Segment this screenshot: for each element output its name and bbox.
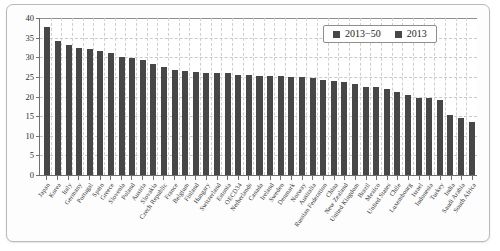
bar[interactable]	[87, 49, 93, 175]
x-axis-tick	[89, 176, 90, 180]
bar[interactable]	[55, 41, 61, 175]
bar[interactable]	[394, 92, 400, 175]
bar[interactable]	[140, 60, 146, 175]
x-axis-tick	[78, 176, 79, 180]
bar[interactable]	[310, 78, 316, 175]
x-axis-tick	[46, 176, 47, 180]
x-axis-tick	[376, 176, 377, 180]
bar[interactable]	[267, 76, 273, 175]
bar[interactable]	[193, 72, 199, 175]
legend-item-0[interactable]: 2013−50	[333, 29, 381, 39]
bar[interactable]	[182, 71, 188, 175]
x-axis-tick	[302, 176, 303, 180]
x-axis-tick	[153, 176, 154, 180]
bar-slot	[297, 18, 308, 175]
bar[interactable]	[331, 81, 337, 175]
y-axis-tick-label: 10	[26, 132, 35, 141]
x-axis-tick	[355, 176, 356, 180]
bar[interactable]	[203, 73, 209, 175]
bar[interactable]	[214, 73, 220, 175]
x-label-slot: South Africa	[467, 181, 478, 243]
bar-slot	[191, 18, 202, 175]
legend-item-1[interactable]: 2013	[395, 29, 427, 39]
x-axis-tick	[344, 176, 345, 180]
bar-slot	[42, 18, 53, 175]
bar[interactable]	[426, 98, 432, 175]
bar-slot	[254, 18, 265, 175]
bar[interactable]	[129, 58, 135, 175]
bar[interactable]	[384, 89, 390, 175]
x-axis-tick	[238, 176, 239, 180]
y-axis-tick-label: 30	[26, 53, 35, 62]
bar[interactable]	[76, 48, 82, 175]
x-axis-tick	[440, 176, 441, 180]
x-axis-tick	[472, 176, 473, 180]
bar-slot	[307, 18, 318, 175]
bar-slot	[445, 18, 456, 175]
x-axis-tick	[227, 176, 228, 180]
bar[interactable]	[341, 82, 347, 175]
bar[interactable]	[119, 57, 125, 175]
bar[interactable]	[373, 87, 379, 175]
legend-swatch-icon	[333, 31, 340, 38]
bar[interactable]	[256, 76, 262, 175]
x-axis-tick	[451, 176, 452, 180]
bar[interactable]	[363, 87, 369, 175]
x-axis-tick	[100, 176, 101, 180]
bar[interactable]	[405, 95, 411, 175]
bar[interactable]	[288, 77, 294, 175]
x-axis-tick	[334, 176, 335, 180]
bar[interactable]	[108, 53, 114, 175]
bar[interactable]	[225, 73, 231, 175]
bar[interactable]	[246, 75, 252, 175]
bar[interactable]	[416, 98, 422, 175]
x-axis-tick	[248, 176, 249, 180]
x-axis-tick	[57, 176, 58, 180]
chart-card: 0510152025303540 JapanKoreaItalyGermanyP…	[6, 4, 490, 242]
bar-slot	[63, 18, 74, 175]
x-axis-tick	[121, 176, 122, 180]
x-axis-tick	[387, 176, 388, 180]
y-axis-tick-label: 40	[26, 14, 35, 23]
bar-slot	[466, 18, 477, 175]
bar-slot	[265, 18, 276, 175]
legend-label: 2013	[407, 29, 427, 39]
bar[interactable]	[44, 27, 50, 175]
x-axis-labels: JapanKoreaItalyGermanyPortugalSpainGreec…	[39, 181, 477, 243]
y-axis-tick-label: 25	[26, 73, 35, 82]
x-axis-tick	[68, 176, 69, 180]
y-axis-tick-label: 35	[26, 33, 35, 42]
bar-slot	[127, 18, 138, 175]
bar[interactable]	[437, 100, 443, 175]
bar-slot	[53, 18, 64, 175]
bar[interactable]	[278, 76, 284, 175]
bar-slot	[456, 18, 467, 175]
bar[interactable]	[320, 80, 326, 175]
bar[interactable]	[97, 51, 103, 175]
bar[interactable]	[150, 64, 156, 175]
x-axis-tick	[131, 176, 132, 180]
x-axis-tick	[174, 176, 175, 180]
bar[interactable]	[299, 77, 305, 175]
bar[interactable]	[458, 118, 464, 175]
bar-slot	[180, 18, 191, 175]
y-axis-tick-label: 0	[30, 171, 34, 180]
x-axis-tick	[291, 176, 292, 180]
bar[interactable]	[172, 70, 178, 175]
bar[interactable]	[469, 122, 475, 175]
bar-slot	[212, 18, 223, 175]
x-axis-tick	[270, 176, 271, 180]
x-axis-tick	[217, 176, 218, 180]
bar-slot	[286, 18, 297, 175]
x-axis-tick	[110, 176, 111, 180]
y-axis-tick-label: 20	[26, 92, 35, 101]
bar[interactable]	[235, 75, 241, 175]
bar[interactable]	[66, 45, 72, 175]
bar[interactable]	[447, 115, 453, 175]
bar-slot	[201, 18, 212, 175]
bar[interactable]	[352, 84, 358, 175]
y-axis-tick-label: 15	[26, 112, 35, 121]
bar-slot	[159, 18, 170, 175]
bar-slot	[148, 18, 159, 175]
bar[interactable]	[161, 67, 167, 175]
